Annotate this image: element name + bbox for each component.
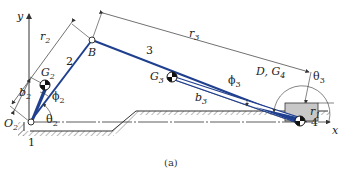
- angle-phi2-label: ϕ2: [52, 90, 65, 105]
- dim-r3-label: r3: [189, 27, 199, 42]
- point-G3-label: G3: [150, 70, 164, 85]
- x-axis-label: x: [332, 124, 339, 137]
- point-D-G4-label: D, G4: [255, 65, 285, 80]
- mass-center-G3: [167, 72, 177, 82]
- point-B-label: B: [87, 46, 96, 59]
- angle-theta3-label: θ3: [313, 70, 325, 85]
- angle-phi3-label: ϕ3: [228, 74, 241, 89]
- slider-crank-diagram: y x 2 3 4 1 B O2 G2 G3 D, G4 r2 b2 r3 b3…: [0, 0, 341, 184]
- mass-center-G4: [295, 116, 305, 126]
- link-3-label: 3: [146, 44, 153, 57]
- y-axis-label: y: [16, 10, 24, 23]
- crank-link: [30, 40, 92, 122]
- point-O2-label: O2: [4, 117, 18, 132]
- joint-O2: [28, 119, 34, 125]
- mass-center-G2: [40, 80, 50, 90]
- dim-r2-label: r2: [40, 30, 50, 45]
- link-1-label: 1: [28, 136, 35, 149]
- dim-b3-label: b3: [195, 91, 207, 106]
- figure-caption: (a): [164, 157, 178, 168]
- dim-r1-label: r1: [310, 105, 320, 120]
- link-2-label: 2: [66, 55, 73, 68]
- joint-B: [89, 37, 95, 43]
- angle-theta2-label: θ2: [46, 113, 58, 128]
- point-G2-label: G2: [41, 66, 55, 81]
